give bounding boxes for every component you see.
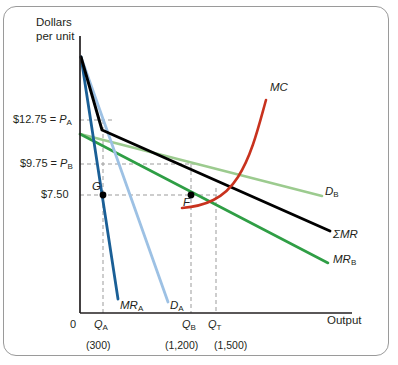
curve-d-b bbox=[80, 134, 322, 196]
x-tick-q-t-paren: (1,500) bbox=[214, 339, 247, 351]
x-tick-q-b-symbol: Q bbox=[182, 318, 191, 330]
x-tick-q-t: QT bbox=[208, 318, 221, 330]
curve-label-d-a-subscript: A bbox=[178, 304, 183, 313]
y-tick-p-a-value: $12.75 = bbox=[13, 113, 59, 125]
guide-lines bbox=[80, 120, 220, 313]
x-tick-q-a-symbol: Q bbox=[94, 318, 103, 330]
x-tick-q-a: QA bbox=[94, 318, 108, 330]
curve-label-mr-a-subscript: A bbox=[138, 304, 143, 313]
curve-label-sigma-mr: ΣMR bbox=[333, 228, 358, 240]
y-tick-p-b-value: $9.75 = bbox=[20, 157, 60, 169]
y-axis-title-line1: Dollars bbox=[36, 16, 74, 30]
x-tick-q-b: QB bbox=[182, 318, 196, 330]
x-tick-q-t-symbol: Q bbox=[208, 318, 217, 330]
x-tick-q-a-subscript: A bbox=[103, 323, 108, 332]
y-tick-p-a: $12.75 = PA bbox=[13, 113, 72, 125]
curve-label-mr-b-subscript: B bbox=[351, 258, 356, 267]
curve-label-d-b: DB bbox=[325, 185, 339, 197]
curve-label-mr-a-symbol: MR bbox=[120, 299, 138, 311]
curve-mr-a bbox=[81, 57, 118, 299]
curve-label-mr-b: MRB bbox=[333, 253, 356, 265]
curve-label-d-b-subscript: B bbox=[333, 190, 338, 199]
curve-label-mr-a: MRA bbox=[120, 299, 143, 311]
chart-svg bbox=[0, 0, 398, 365]
x-tick-q-a-paren: (300) bbox=[86, 339, 111, 351]
y-tick-p-low: $7.50 bbox=[41, 188, 69, 200]
curve-label-mc: MC bbox=[270, 81, 288, 93]
curve-mc bbox=[182, 100, 266, 208]
point-f-label: F bbox=[183, 196, 190, 208]
y-tick-p-b: $9.75 = PB bbox=[20, 157, 73, 169]
curve-label-d-a: DA bbox=[170, 299, 184, 311]
y-tick-p-b-subscript: B bbox=[67, 162, 72, 171]
figure-canvas: Dollars per unit $12.75 = PA $9.75 = PB … bbox=[0, 0, 398, 365]
curve-mr-b bbox=[80, 134, 328, 263]
curve-label-sigma-mr-symbol: ΣMR bbox=[333, 228, 358, 240]
origin-label: 0 bbox=[70, 318, 76, 330]
point-g-label: G bbox=[92, 180, 101, 192]
y-tick-p-a-symbol: P bbox=[59, 113, 66, 125]
y-axis-title: Dollars per unit bbox=[36, 16, 74, 43]
x-tick-q-b-paren: (1,200) bbox=[165, 339, 198, 351]
y-axis-title-line2: per unit bbox=[36, 30, 74, 44]
x-tick-q-t-subscript: T bbox=[217, 323, 222, 332]
curve-label-mr-b-symbol: MR bbox=[333, 253, 351, 265]
x-tick-q-b-subscript: B bbox=[191, 323, 196, 332]
curve-label-mc-symbol: MC bbox=[270, 81, 288, 93]
point-g-dot bbox=[100, 192, 107, 199]
y-tick-p-a-subscript: A bbox=[67, 118, 72, 127]
y-tick-p-low-value: $7.50 bbox=[41, 188, 69, 200]
x-axis-title: Output bbox=[327, 314, 362, 328]
